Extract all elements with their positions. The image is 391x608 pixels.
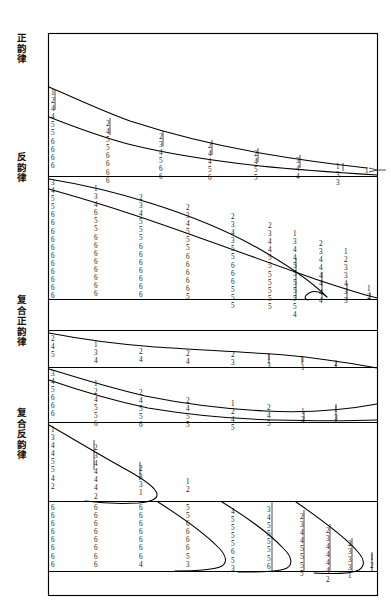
digit-cell: 6 [139,544,143,552]
digit-cell: 3 [231,221,235,229]
digit-cell: 6 [139,536,143,544]
digit-cell: 4 [51,442,55,450]
digit-cell: 4 [186,220,190,228]
digit-column: 2344442 [326,527,330,584]
digit-cell: 5 [293,262,297,270]
digit-cell: 4 [51,187,55,195]
digit-cell: 6 [94,544,98,552]
digit-cell: 6 [139,421,143,429]
digit-cell: 4 [208,158,212,166]
digit-cell: 5 [267,555,271,563]
digit-cell: 4 [94,468,98,476]
digit-cell: 4 [293,246,297,254]
digit-cell: 3 [300,521,304,529]
digit-cell: 5 [254,166,258,174]
digit-cell: 2 [106,120,110,128]
digit-column: 24556 [139,389,143,429]
digit-cell: 5 [300,562,304,570]
prosody-figure: 正韵律 反韵律 复合正韵律 复合反韵律 [0,0,391,608]
digit-cell: 3 [267,506,271,514]
digit-cell: 4 [326,567,330,575]
digit-column: 133 [336,163,340,187]
digit-cell: 6 [94,242,98,250]
panel-label-1: 正韵律 [16,33,26,65]
digit-cell: 4 [159,149,163,157]
digit-cell: 4 [51,105,55,113]
digit-cell: 3 [348,556,352,564]
digit-cell: 4 [268,238,272,246]
digit-cell: 4 [51,475,55,483]
digit-cell: 5 [106,144,110,152]
digit-cell: 6 [51,520,55,528]
digit-cell: 6 [51,536,55,544]
digit-cell: 4 [319,272,323,280]
digit-cell: 6 [231,262,235,270]
digit-cell: 1 [51,89,55,97]
digit-cell: 2 [51,97,55,105]
digit-cell: 5 [208,166,212,174]
digit-cell: 5 [94,217,98,225]
digit-cell: 5 [186,504,190,512]
digit-cell: 2 [159,133,163,141]
digit-cell: 2 [94,388,98,396]
digit-cell: 5 [300,553,304,561]
digit-cell: 6 [94,250,98,258]
digit-cell: 4 [186,405,190,413]
digit-cell: 4 [293,311,297,319]
digit-cell: 4 [208,150,212,158]
digit-cell: 5 [267,538,271,546]
digit-cell: 1 [370,554,374,562]
digit-cell: 5 [94,404,98,412]
digit-cell: 5 [94,412,98,420]
digit-cell: 2 [370,562,374,570]
digit-cell: 5 [186,553,190,561]
digit-cell: 3 [336,179,340,187]
digit-cell: 6 [139,528,143,536]
digit-cell: 2 [94,444,98,452]
digit-cell: 6 [231,270,235,278]
digit-cell: 4 [94,484,98,492]
digit-cell: 6 [94,504,98,512]
digit-cell: 3 [94,349,98,357]
digit-cell: 2 [326,576,330,584]
digit-cell: 5 [51,195,55,203]
digit-column: 1233433 [344,248,348,305]
digit-cell: 3 [301,416,305,424]
digit-column: 13465566666666 [94,185,98,298]
digit-cell: 6 [139,504,143,512]
digit-cell: 5 [300,545,304,553]
digit-column: 23444444 [319,240,323,305]
panel-label-2: 反韵律 [16,152,26,184]
digit-cell: 5 [231,253,235,261]
digit-column: 124556 [94,380,98,429]
digit-cell: 4 [319,264,323,272]
digit-cell: 4 [319,297,323,305]
digit-cell: 6 [186,520,190,528]
digit-cell: 6 [186,269,190,277]
digit-cell: 1 [139,489,143,497]
digit-column: 1 [365,167,369,175]
digit-cell: 4 [319,256,323,264]
digit-cell: 5 [231,532,235,540]
digit-cell: 6 [94,258,98,266]
digit-column: 24556666 [106,120,110,185]
digit-cell: 5 [231,516,235,524]
digit-cell: 5 [139,405,143,413]
digit-cell: 4 [186,358,190,366]
digit-cell: 4 [94,201,98,209]
digit-column: 2344442 [94,444,98,501]
digit-cell: 2 [348,540,352,548]
digit-cell: 5 [293,270,297,278]
digit-cell: 6 [51,504,55,512]
digit-cell: 5 [231,524,235,532]
digit-cell: 5 [51,203,55,211]
digit-cell: 4 [139,356,143,364]
digit-cell: 3 [267,362,271,370]
digit-cell: 5 [231,294,235,302]
digit-cell: 5 [139,413,143,421]
digit-cell: 3 [326,535,330,543]
digit-cell: 2 [231,351,235,359]
digit-cell: 6 [51,276,55,284]
curve-bottom-1 [158,502,225,571]
digit-column: 234555666665 [186,204,190,301]
